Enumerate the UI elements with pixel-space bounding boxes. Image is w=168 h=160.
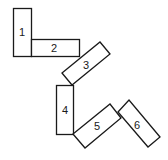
block-1: 1 [14,9,32,57]
block-5-label: 5 [94,120,100,132]
block-5: 5 [73,104,121,148]
block-6: 6 [118,100,160,147]
block-chain-diagram: 1 2 3 4 5 6 [0,0,168,160]
block-6-label: 6 [134,119,140,131]
block-3-label: 3 [83,59,89,71]
block-4: 4 [57,86,74,135]
block-4-label: 4 [62,104,68,116]
block-2-label: 2 [51,42,57,54]
block-1-label: 1 [19,26,25,38]
block-2: 2 [32,40,80,57]
